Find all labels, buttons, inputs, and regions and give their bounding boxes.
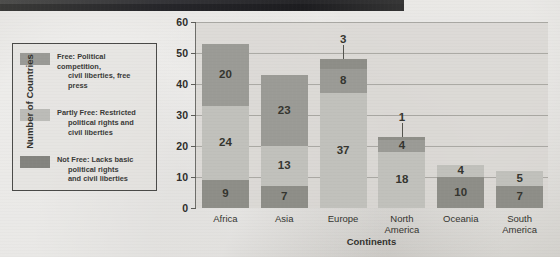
bar-value-label: 3 [340, 33, 346, 45]
leader-line [402, 123, 403, 137]
bar-segment-partly-free[interactable]: 13 [261, 146, 308, 186]
legend-label-not-free: Not Free: Lacks basic political rights a… [57, 155, 133, 184]
y-axis-tick [191, 177, 196, 178]
y-axis-tick-label: 20 [176, 140, 188, 152]
x-axis-tick-label: Oceania [443, 213, 478, 224]
y-axis-tick [191, 22, 196, 23]
bar-value-label: 4 [458, 165, 464, 177]
bar-south-america[interactable]: 57South America [496, 171, 543, 208]
bar-value-label: 7 [281, 191, 287, 203]
gridline [196, 22, 548, 23]
bar-segment-not-free[interactable]: 9 [202, 180, 249, 208]
bar-africa[interactable]: 20249Africa [202, 44, 249, 208]
bar-asia[interactable]: 23137Asia [261, 75, 308, 208]
bar-value-label: 9 [222, 188, 228, 200]
bar-value-label: 7 [516, 191, 522, 203]
bar-value-label: 13 [278, 160, 291, 172]
bar-value-label: 18 [396, 174, 409, 186]
y-axis-tick-label: 0 [182, 202, 188, 214]
y-axis-tick [191, 115, 196, 116]
y-axis-tick [191, 84, 196, 85]
legend-item-partly-free: Partly Free: Restricted political rights… [20, 108, 150, 137]
bar-segment-free[interactable]: 23 [261, 75, 308, 146]
bar-value-label: 4 [399, 140, 405, 152]
y-axis-tick-label: 60 [176, 16, 188, 28]
x-axis-tick-label: Africa [213, 213, 237, 224]
bar-segment-partly-free[interactable]: 18 [378, 152, 425, 208]
legend-item-free: Free: Political competition, civil liber… [20, 52, 150, 90]
y-axis-tick-label: 40 [176, 78, 188, 90]
bar-segment-partly-free[interactable]: 24 [202, 106, 249, 180]
bar-value-label: 1 [399, 111, 405, 123]
bar-north-america[interactable]: 1418North America [378, 137, 425, 208]
bar-segment-not-free[interactable]: 10 [437, 177, 484, 208]
legend-label-partly-free: Partly Free: Restricted political rights… [57, 108, 136, 137]
bar-value-label: 23 [278, 105, 291, 117]
bar-segment-partly-free[interactable]: 37 [320, 93, 367, 208]
bar-value-label: 37 [337, 145, 350, 157]
x-axis-tick-label: Europe [328, 213, 359, 224]
legend-label-free: Free: Political competition, civil liber… [57, 52, 150, 90]
y-axis-tick [191, 146, 196, 147]
x-axis-tick-label: Asia [275, 213, 293, 224]
bar-oceania[interactable]: 410Oceania [437, 165, 484, 208]
bar-europe[interactable]: 3837Europe [320, 59, 367, 208]
bar-segment-partly-free[interactable]: 4 [437, 165, 484, 177]
bar-segment-not-free[interactable]: 7 [261, 186, 308, 208]
x-axis-tick-label: North America [384, 213, 419, 235]
x-axis-title: Continents [195, 236, 548, 247]
bar-segment-partly-free[interactable]: 5 [496, 171, 543, 187]
bar-value-label: 8 [340, 75, 346, 87]
legend-item-not-free: Not Free: Lacks basic political rights a… [20, 155, 150, 184]
bar-value-label: 5 [516, 173, 522, 185]
leader-line [343, 45, 344, 59]
bar-segment-free[interactable]: 4 [378, 140, 425, 152]
y-axis-tick [191, 53, 196, 54]
y-axis-title: Number of Countries [24, 37, 35, 167]
y-axis-tick-label: 30 [176, 109, 188, 121]
scan-edge-band [0, 0, 404, 11]
y-axis-tick [191, 208, 196, 209]
plot-area: 010203040506020249Africa23137Asia3837Eur… [195, 22, 548, 208]
bar-segment-extra[interactable]: 3 [320, 59, 367, 68]
bar-value-label: 24 [219, 137, 232, 149]
bar-value-label: 10 [454, 187, 467, 199]
bar-value-label: 20 [219, 69, 232, 81]
x-axis-tick-label: South America [502, 213, 537, 235]
y-axis-tick-label: 50 [176, 47, 188, 59]
bar-segment-free[interactable]: 20 [202, 44, 249, 106]
bar-segment-free[interactable]: 8 [320, 69, 367, 94]
bar-segment-not-free[interactable]: 7 [496, 186, 543, 208]
y-axis-tick-label: 10 [176, 171, 188, 183]
